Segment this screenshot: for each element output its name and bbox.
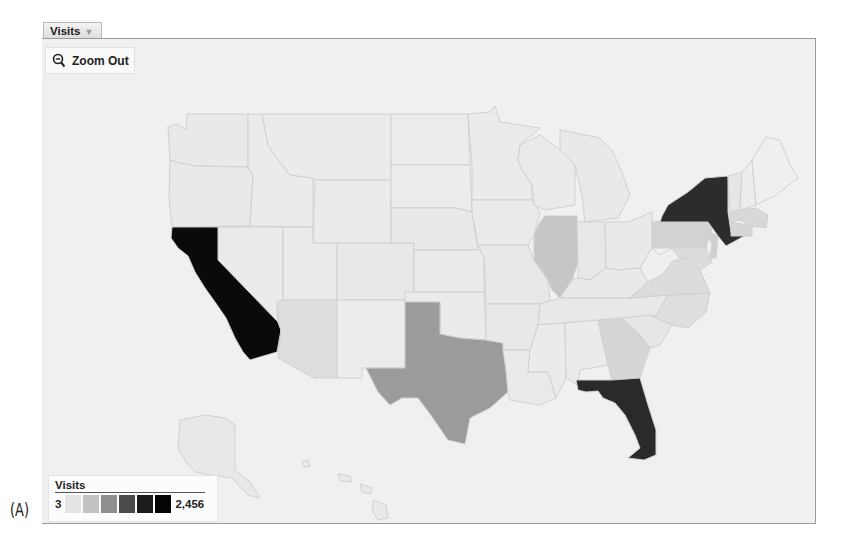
us-choropleth-map[interactable] xyxy=(42,39,815,523)
state-north-dakota[interactable] xyxy=(391,114,470,165)
state-florida[interactable] xyxy=(576,378,656,460)
state-arizona[interactable] xyxy=(277,300,337,378)
state-south-dakota[interactable] xyxy=(391,165,472,212)
chevron-down-icon: ▼ xyxy=(84,27,93,37)
state-kansas[interactable] xyxy=(414,250,484,292)
state-new-mexico[interactable] xyxy=(337,300,405,378)
legend-swatch xyxy=(137,495,153,513)
metric-tab-visits[interactable]: Visits▼ xyxy=(43,22,102,38)
color-legend: Visits 3 2,456 xyxy=(48,475,218,522)
magnifier-minus-icon xyxy=(52,53,66,68)
state-washington[interactable] xyxy=(168,114,248,167)
state-oregon[interactable] xyxy=(169,160,253,227)
legend-title: Visits xyxy=(55,479,205,493)
figure-label: (A) xyxy=(10,500,29,520)
state-hawaii[interactable] xyxy=(302,460,388,520)
legend-swatch xyxy=(119,495,135,513)
legend-swatch xyxy=(101,495,117,513)
legend-max-value: 2,456 xyxy=(175,498,204,510)
zoom-out-label: Zoom Out xyxy=(72,54,129,68)
legend-swatches xyxy=(65,495,171,513)
state-maine[interactable] xyxy=(752,137,798,205)
state-iowa[interactable] xyxy=(472,200,540,245)
state-wyoming[interactable] xyxy=(313,180,391,243)
metric-tab-label: Visits xyxy=(50,25,80,37)
zoom-out-button[interactable]: Zoom Out xyxy=(45,47,135,74)
legend-scale: 3 2,456 xyxy=(55,495,211,513)
legend-swatch xyxy=(83,495,99,513)
state-colorado[interactable] xyxy=(337,243,414,300)
legend-swatch xyxy=(155,495,171,513)
legend-swatch xyxy=(65,495,81,513)
legend-min-value: 3 xyxy=(55,498,61,510)
